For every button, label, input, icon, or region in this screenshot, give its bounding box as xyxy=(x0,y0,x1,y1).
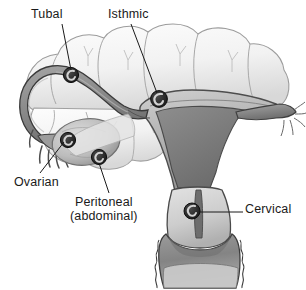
site-ovarian-marker xyxy=(60,132,75,147)
anatomy-illustration xyxy=(0,0,306,290)
cervix xyxy=(167,187,230,248)
ectopic-pregnancy-diagram: Tubal Isthmic Ovarian Peritoneal (abdomi… xyxy=(0,0,306,290)
label-cervical: Cervical xyxy=(245,203,291,217)
label-tubal: Tubal xyxy=(31,8,63,22)
site-isthmic-marker xyxy=(151,91,168,108)
label-peritoneal: Peritoneal (abdominal) xyxy=(70,196,138,223)
label-isthmic: Isthmic xyxy=(108,8,149,22)
site-peritoneal-marker xyxy=(91,149,106,164)
label-ovarian: Ovarian xyxy=(14,176,59,190)
site-cervical-marker xyxy=(184,203,200,219)
